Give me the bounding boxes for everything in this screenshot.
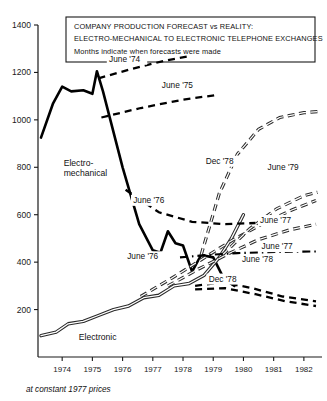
x-tick-label: 1982 bbox=[295, 365, 313, 374]
x-tick-label: 1979 bbox=[204, 365, 222, 374]
forecast-label: June '79 bbox=[268, 162, 299, 172]
y-tick-label: 1000 bbox=[12, 115, 31, 125]
series-name-label: Electronic bbox=[79, 332, 117, 342]
x-tick-label: 1978 bbox=[174, 365, 192, 374]
chart-caption: Months indicate when forecasts were made bbox=[74, 47, 221, 56]
forecast-label: June '78 bbox=[242, 254, 273, 264]
forecast-label: Dec '78 bbox=[209, 274, 237, 284]
forecast-label: June '77 bbox=[260, 215, 291, 225]
y-tick-label: 800 bbox=[17, 162, 31, 172]
y-tick-label: 200 bbox=[17, 305, 31, 315]
title-box: COMPANY PRODUCTION FORECAST vs REALITY: … bbox=[66, 17, 323, 62]
x-tick-label: 1976 bbox=[114, 365, 132, 374]
chart-svg: COMPANY PRODUCTION FORECAST vs REALITY: … bbox=[0, 0, 327, 401]
x-tick-label: 1977 bbox=[144, 365, 162, 374]
forecast-label: June '75 bbox=[162, 80, 193, 90]
forecast-label: June '77 bbox=[262, 241, 293, 251]
forecast-label: Dec '78 bbox=[206, 156, 234, 166]
forecast-label: June '76 bbox=[127, 251, 158, 261]
y-tick-label: 400 bbox=[17, 257, 31, 267]
forecast-label: June '76 bbox=[133, 195, 164, 205]
footnote: at constant 1977 prices bbox=[26, 385, 111, 394]
chart-subtitle: ELECTRO-MECHANICAL TO ELECTRONIC TELEPHO… bbox=[74, 34, 323, 43]
x-tick-label: 1981 bbox=[265, 365, 283, 374]
series-name-label: mechanical bbox=[64, 168, 108, 178]
x-tick-label: 1975 bbox=[83, 365, 101, 374]
series-name-label: Electro- bbox=[64, 158, 94, 168]
x-tick-label: 1980 bbox=[235, 365, 253, 374]
y-tick-label: 1200 bbox=[12, 67, 31, 77]
production-forecast-chart: COMPANY PRODUCTION FORECAST vs REALITY: … bbox=[0, 0, 327, 401]
y-tick-label: 600 bbox=[17, 210, 31, 220]
y-tick-label: 1400 bbox=[12, 20, 31, 30]
forecast-label: June '74 bbox=[109, 54, 140, 64]
x-tick-label: 1974 bbox=[53, 365, 71, 374]
chart-title: COMPANY PRODUCTION FORECAST vs REALITY: bbox=[74, 22, 253, 31]
